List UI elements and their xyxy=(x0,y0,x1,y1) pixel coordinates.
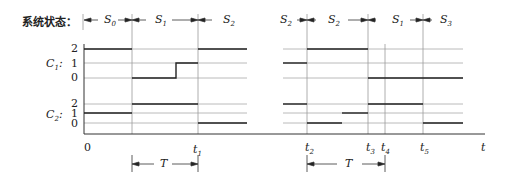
period-label: T xyxy=(160,158,167,169)
time-mark-t3: t3 xyxy=(366,142,375,156)
time-mark-t1: t1 xyxy=(193,144,202,158)
origin-label: 0 xyxy=(84,142,91,153)
waveforms xyxy=(84,49,463,123)
state-label: S1 xyxy=(392,14,404,28)
axes xyxy=(84,44,485,134)
signal-c2-label: C2: xyxy=(46,109,63,123)
state-label: S0S0 xyxy=(104,14,116,28)
state-label: S2 xyxy=(328,14,340,28)
period-label: T xyxy=(345,158,352,169)
time-mark-t2: t2 xyxy=(305,142,314,156)
system-state-title: 系统状态： xyxy=(22,13,77,29)
tick-label: 2 xyxy=(71,43,78,54)
state-arrows xyxy=(84,18,432,22)
signal-c1-label: C1: xyxy=(46,58,63,72)
state-label: S1 xyxy=(155,14,167,28)
time-dividers xyxy=(83,14,423,134)
tick-label: 1 xyxy=(71,58,78,69)
tick-label: 0 xyxy=(71,72,78,83)
tick-label: 0 xyxy=(71,118,78,129)
state-label: S2 xyxy=(223,14,235,28)
state-label: S3 xyxy=(440,14,452,28)
time-mark-t5: t5 xyxy=(420,142,429,156)
state-label: S2 xyxy=(280,14,292,28)
axis-end-label: t xyxy=(481,142,485,153)
grid-left xyxy=(84,49,247,123)
time-mark-t4: t4 xyxy=(381,142,390,156)
grid-right xyxy=(283,49,463,123)
